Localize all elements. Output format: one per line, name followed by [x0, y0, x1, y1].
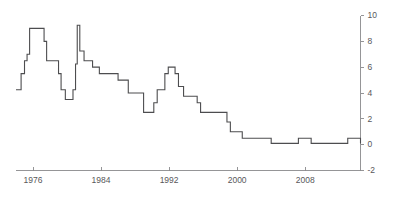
x-tick-label: 2008 [296, 175, 315, 185]
y-tick-label: 0 [368, 139, 373, 149]
x-tick-label-group: 19761984199220002008 [24, 175, 315, 185]
x-tick-label: 1984 [92, 175, 111, 185]
x-tick-group [33, 167, 305, 171]
y-tick-label: 8 [368, 36, 373, 46]
series-line-official-discount-rate [16, 25, 361, 143]
chart-container: -20246810 19761984199220002008 [0, 0, 396, 211]
line-chart: -20246810 19761984199220002008 [0, 0, 396, 211]
y-tick-label: 10 [368, 10, 378, 20]
y-tick-label: 6 [368, 62, 373, 72]
y-tick-label: -2 [368, 165, 376, 175]
y-tick-label-group: -20246810 [368, 10, 378, 175]
y-tick-group [361, 16, 365, 171]
y-tick-label: 4 [368, 88, 373, 98]
x-tick-label: 2000 [228, 175, 247, 185]
x-tick-label: 1976 [24, 175, 43, 185]
x-tick-label: 1992 [160, 175, 179, 185]
y-tick-label: 2 [368, 114, 373, 124]
